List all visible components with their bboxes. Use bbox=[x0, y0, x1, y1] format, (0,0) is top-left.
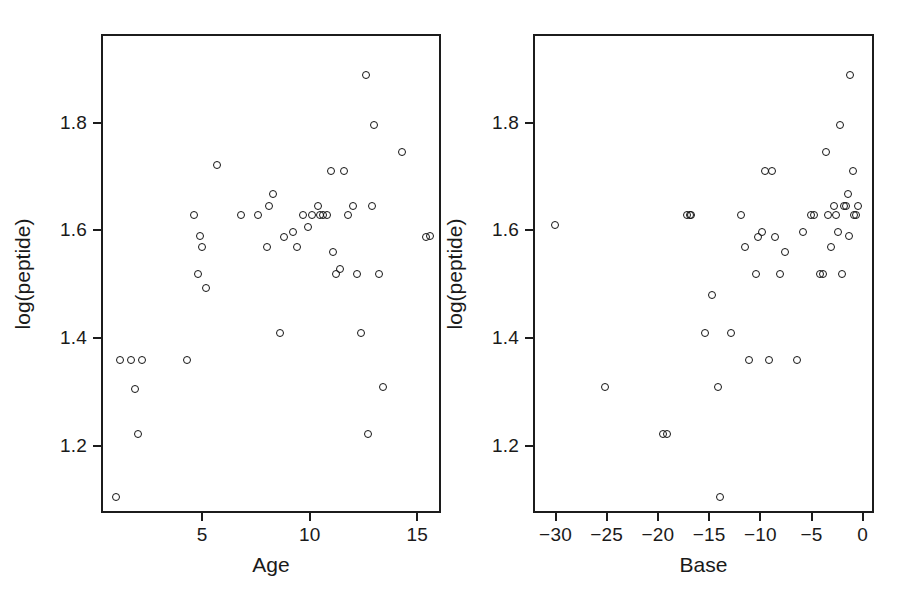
data-point bbox=[127, 356, 135, 364]
data-point bbox=[336, 265, 344, 273]
y-axis-title: log(peptide) bbox=[11, 218, 35, 329]
x-axis-title: Base bbox=[680, 553, 728, 577]
data-point bbox=[768, 167, 776, 175]
data-point bbox=[183, 356, 191, 364]
data-point bbox=[714, 383, 722, 391]
data-point bbox=[194, 270, 202, 278]
y-tick bbox=[93, 229, 101, 231]
data-point bbox=[280, 233, 288, 241]
data-point bbox=[854, 202, 862, 210]
data-point bbox=[852, 211, 860, 219]
x-tick-label: −15 bbox=[693, 524, 726, 546]
data-point bbox=[745, 356, 753, 364]
data-point bbox=[793, 356, 801, 364]
data-point bbox=[276, 329, 284, 337]
data-point bbox=[781, 248, 789, 256]
data-point bbox=[551, 221, 559, 229]
data-point bbox=[304, 223, 312, 231]
data-point bbox=[827, 243, 835, 251]
data-point bbox=[601, 383, 609, 391]
x-tick-label: −25 bbox=[590, 524, 623, 546]
y-tick-label: 1.6 bbox=[477, 219, 519, 241]
data-point bbox=[663, 430, 671, 438]
y-tick-label: 1.4 bbox=[477, 327, 519, 349]
x-tick-label: −10 bbox=[744, 524, 777, 546]
data-point bbox=[198, 243, 206, 251]
data-point bbox=[799, 228, 807, 236]
scatter-figure: 510151.21.41.61.8Agelog(peptide) −30−25−… bbox=[0, 0, 911, 593]
x-tick bbox=[657, 513, 659, 521]
y-axis-title: log(peptide) bbox=[443, 218, 467, 329]
y-tick-label: 1.2 bbox=[45, 435, 87, 457]
y-tick-label: 1.4 bbox=[45, 327, 87, 349]
y-tick-label: 1.8 bbox=[45, 112, 87, 134]
data-point bbox=[379, 383, 387, 391]
x-tick bbox=[811, 513, 813, 521]
plot-area-age bbox=[101, 34, 441, 513]
data-point bbox=[353, 270, 361, 278]
x-tick-label: 15 bbox=[407, 524, 429, 546]
x-tick-label: −5 bbox=[800, 524, 822, 546]
data-point bbox=[701, 329, 709, 337]
y-tick bbox=[525, 337, 533, 339]
x-tick-label: 0 bbox=[857, 524, 868, 546]
data-point bbox=[849, 167, 857, 175]
data-point bbox=[771, 233, 779, 241]
data-point bbox=[810, 211, 818, 219]
x-tick bbox=[759, 513, 761, 521]
y-tick bbox=[93, 337, 101, 339]
data-point bbox=[293, 243, 301, 251]
y-tick bbox=[93, 445, 101, 447]
x-tick bbox=[555, 513, 557, 521]
data-point bbox=[289, 228, 297, 236]
x-tick bbox=[201, 513, 203, 521]
y-tick-label: 1.2 bbox=[477, 435, 519, 457]
data-point bbox=[727, 329, 735, 337]
data-point bbox=[190, 211, 198, 219]
y-tick-label: 1.6 bbox=[45, 219, 87, 241]
y-tick bbox=[93, 122, 101, 124]
data-point bbox=[263, 243, 271, 251]
x-tick bbox=[416, 513, 418, 521]
data-point bbox=[765, 356, 773, 364]
data-point bbox=[834, 228, 842, 236]
panel-age: 510151.21.41.61.8Agelog(peptide) bbox=[0, 0, 455, 593]
x-tick-label: 10 bbox=[299, 524, 321, 546]
x-tick bbox=[309, 513, 311, 521]
x-tick-label: 5 bbox=[197, 524, 208, 546]
x-tick bbox=[606, 513, 608, 521]
data-point bbox=[213, 161, 221, 169]
data-point bbox=[819, 270, 827, 278]
data-point bbox=[364, 430, 372, 438]
data-point bbox=[349, 202, 357, 210]
data-point bbox=[776, 270, 784, 278]
data-point bbox=[116, 356, 124, 364]
x-axis-title: Age bbox=[252, 553, 289, 577]
data-point bbox=[196, 232, 204, 240]
data-point bbox=[112, 493, 120, 501]
x-tick-label: −20 bbox=[642, 524, 675, 546]
x-tick bbox=[862, 513, 864, 521]
data-point bbox=[752, 270, 760, 278]
data-point bbox=[838, 270, 846, 278]
y-tick-label: 1.8 bbox=[477, 112, 519, 134]
x-tick-label: −30 bbox=[539, 524, 572, 546]
y-tick bbox=[525, 445, 533, 447]
y-tick bbox=[525, 229, 533, 231]
x-tick bbox=[708, 513, 710, 521]
data-point bbox=[758, 228, 766, 236]
data-point bbox=[134, 430, 142, 438]
y-tick bbox=[525, 122, 533, 124]
data-point bbox=[741, 243, 749, 251]
data-point bbox=[138, 356, 146, 364]
panel-base: −30−25−20−15−10−501.21.41.61.8Baselog(pe… bbox=[456, 0, 911, 593]
data-point bbox=[375, 270, 383, 278]
